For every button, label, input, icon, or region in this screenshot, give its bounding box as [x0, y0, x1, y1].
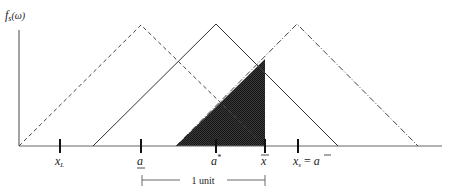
y-axis-label: fs(ω) [5, 8, 26, 23]
label-x-bar: x [260, 154, 267, 168]
density-diagram: fs(ω) xL a a* x xs = a 1 unit [0, 0, 453, 196]
label-a-star: a* [211, 153, 221, 168]
label-x-L: xL [54, 154, 64, 169]
unit-bracket-label: 1 unit [191, 175, 214, 186]
label-x-s: xs = a [292, 154, 320, 169]
label-a-lower: a [137, 154, 143, 168]
